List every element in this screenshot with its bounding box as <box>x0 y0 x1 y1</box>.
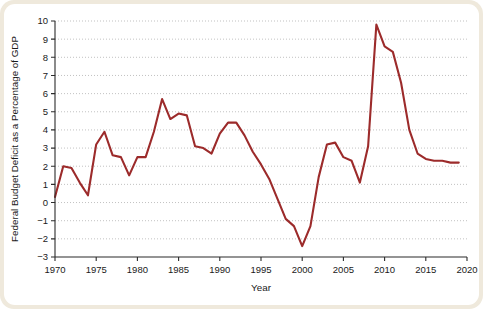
line-chart: −3−2−10123456789101970197519801985199019… <box>4 4 479 305</box>
data-series-line <box>55 25 459 246</box>
x-tick-label: 1975 <box>86 264 107 275</box>
y-tick-label: 3 <box>43 142 48 153</box>
y-tick-label: −3 <box>37 251 48 262</box>
y-tick-label: 2 <box>43 161 48 172</box>
y-tick-label: 10 <box>37 15 48 26</box>
x-tick-label: 1985 <box>168 264 189 275</box>
x-tick-label: 2010 <box>374 264 395 275</box>
y-tick-label: 4 <box>43 124 48 135</box>
y-tick-label: −2 <box>37 233 48 244</box>
x-tick-label: 2015 <box>415 264 436 275</box>
y-tick-label: 1 <box>43 179 48 190</box>
y-tick-label: 9 <box>43 34 48 45</box>
figure-frame: −3−2−10123456789101970197519801985199019… <box>0 0 483 309</box>
y-tick-label: 8 <box>43 52 48 63</box>
x-tick-label: 2000 <box>292 264 313 275</box>
x-tick-label: 1995 <box>250 264 271 275</box>
y-tick-label: 6 <box>43 88 48 99</box>
x-tick-label: 1970 <box>44 264 65 275</box>
x-axis-title: Year <box>251 282 272 293</box>
y-tick-label: 5 <box>43 106 48 117</box>
x-tick-label: 2020 <box>456 264 477 275</box>
y-tick-label: 7 <box>43 70 48 81</box>
y-axis-title: Federal Budget Deficit as a Percentage o… <box>9 36 20 242</box>
figure-plot-panel: −3−2−10123456789101970197519801985199019… <box>4 4 479 305</box>
y-tick-label: −1 <box>37 215 48 226</box>
x-tick-label: 1980 <box>127 264 148 275</box>
x-tick-label: 1990 <box>209 264 230 275</box>
x-tick-label: 2005 <box>333 264 354 275</box>
y-tick-label: 0 <box>43 197 48 208</box>
